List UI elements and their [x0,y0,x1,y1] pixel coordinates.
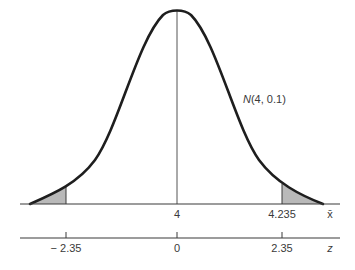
distribution-label: N(4, 0.1) [243,93,286,105]
z-tick-label-right: 2.35 [271,242,292,254]
x-tick-label-mean: 4 [174,208,180,220]
normal-distribution-diagram: N(4, 0.1) 4 4.235 x̄ − 2.35 0 2.35 z [0,0,355,270]
z-tick-label-center: 0 [174,242,180,254]
z-tick-label-left: − 2.35 [51,242,82,254]
z-axis-variable-label: z [326,242,333,254]
x-axis-variable-label: x̄ [327,208,333,220]
x-tick-label-critical: 4.235 [268,208,296,220]
